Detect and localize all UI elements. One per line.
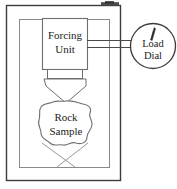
figure-canvas: Forcing Unit Rock Sample Load Dial — [0, 0, 177, 189]
rock-sample-label-line2: Sample — [50, 125, 83, 137]
rock-sample-blob — [38, 101, 92, 145]
forcing-unit-label-line1: Forcing — [48, 29, 83, 41]
apparatus-diagram: Forcing Unit Rock Sample Load Dial — [0, 0, 177, 189]
platen-wedge — [44, 79, 86, 103]
load-dial-label-line1: Load — [142, 38, 164, 49]
load-dial-label-line2: Dial — [144, 50, 162, 61]
forcing-unit-label-line2: Unit — [55, 43, 75, 55]
rock-sample-label-line1: Rock — [54, 111, 78, 123]
top-frame-marker-core — [105, 1, 114, 3]
base-cross-supports — [42, 143, 88, 167]
connector-block — [48, 70, 83, 79]
